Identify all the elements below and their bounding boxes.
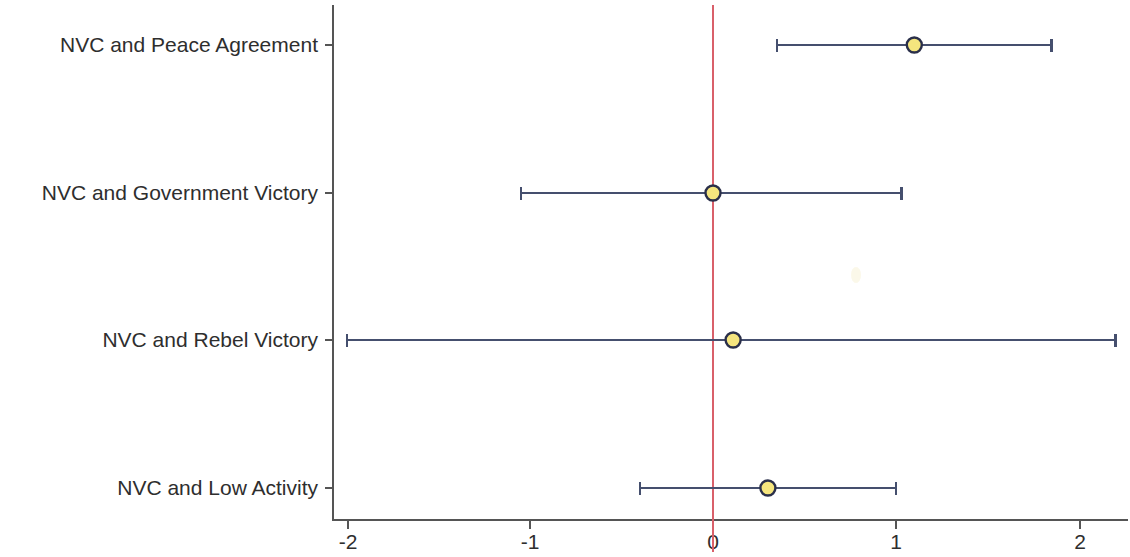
point-estimate-marker	[760, 481, 775, 496]
estimate-row	[521, 186, 902, 201]
plot-canvas: NVC and Peace Agreement NVC and Governme…	[0, 0, 1130, 557]
ytick-label-peace-agreement: NVC and Peace Agreement	[60, 33, 318, 56]
point-estimate-marker	[907, 38, 922, 53]
estimate-series	[347, 38, 1116, 496]
point-estimate-marker	[706, 186, 721, 201]
ytick-label-government-victory: NVC and Government Victory	[42, 181, 319, 204]
ytick-label-rebel-victory: NVC and Rebel Victory	[102, 328, 318, 351]
y-tick-marks	[325, 45, 333, 488]
forest-plot-figure: NVC and Peace Agreement NVC and Governme…	[0, 0, 1130, 557]
xtick-label-two: 2	[1074, 530, 1086, 553]
estimate-row	[777, 38, 1052, 53]
point-estimate-marker	[726, 333, 741, 348]
estimate-row	[347, 333, 1116, 348]
x-tick-marks	[348, 520, 1080, 529]
axis-spines	[333, 5, 1128, 520]
xtick-label-neg2: -2	[339, 530, 358, 553]
xtick-label-neg1: -1	[521, 530, 540, 553]
scan-artifact	[851, 267, 861, 283]
ytick-label-low-activity: NVC and Low Activity	[117, 476, 318, 499]
xtick-label-one: 1	[890, 530, 902, 553]
estimate-row	[640, 481, 896, 496]
